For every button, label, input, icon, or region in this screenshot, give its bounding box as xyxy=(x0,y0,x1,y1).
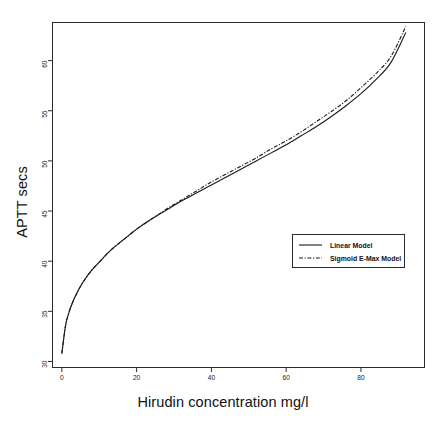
x-tick-label: 60 xyxy=(282,374,289,381)
x-tick-label: 80 xyxy=(357,374,364,381)
y-tick-label: 45 xyxy=(41,211,48,218)
legend-label-linear-model: Linear Model xyxy=(330,242,373,249)
y-tick-label: 30 xyxy=(41,361,48,368)
y-tick-label: 40 xyxy=(41,261,48,268)
legend-box xyxy=(293,235,405,268)
y-tick-label: 60 xyxy=(41,60,48,67)
plot-canvas xyxy=(0,0,446,434)
y-tick-label: 50 xyxy=(41,160,48,167)
legend-label-sigmoid-emax-model: Sigmoid E-Max Model xyxy=(330,255,401,262)
chart-figure: Hirudin concentration mg/l APTT secs 020… xyxy=(0,0,446,434)
figure-background xyxy=(0,0,446,434)
x-tick-label: 20 xyxy=(133,374,140,381)
y-tick-label: 55 xyxy=(41,110,48,117)
y-axis-title: APTT secs xyxy=(14,102,30,302)
x-tick-label: 0 xyxy=(60,374,64,381)
x-tick-label: 40 xyxy=(208,374,215,381)
y-tick-label: 35 xyxy=(41,311,48,318)
x-axis-title: Hirudin concentration mg/l xyxy=(0,394,446,410)
